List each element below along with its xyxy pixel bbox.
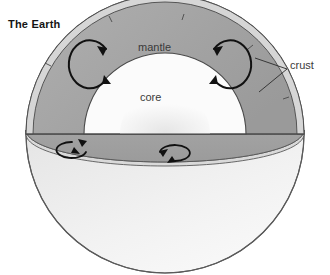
cut-face: [26, 0, 304, 134]
label-crust: crust: [290, 59, 314, 71]
earth-cutaway-figure: The Earth mantle core crust: [0, 0, 330, 275]
label-core: core: [140, 91, 161, 103]
label-mantle: mantle: [138, 41, 171, 53]
figure-title: The Earth: [8, 18, 61, 30]
